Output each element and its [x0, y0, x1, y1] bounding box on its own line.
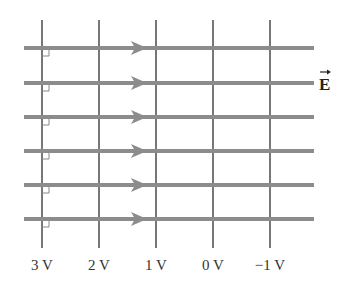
field-diagram: 3 V2 V1 V0 V−1 V E	[0, 0, 356, 283]
right-angle-icon	[42, 221, 49, 227]
right-angle-icon	[42, 187, 49, 193]
field-label-text: E	[319, 75, 330, 94]
equipotential-lines	[42, 20, 270, 248]
right-angle-markers	[42, 50, 49, 227]
potential-label: −1 V	[255, 257, 285, 273]
right-angle-icon	[42, 50, 49, 56]
right-angle-icon	[42, 153, 49, 159]
right-angle-icon	[42, 119, 49, 125]
potential-label: 0 V	[202, 257, 224, 273]
potential-labels: 3 V2 V1 V0 V−1 V	[31, 257, 285, 273]
field-label: E	[319, 70, 331, 95]
potential-label: 2 V	[88, 257, 110, 273]
vector-arrow-icon	[320, 70, 331, 75]
right-angle-icon	[42, 85, 49, 91]
potential-label: 3 V	[31, 257, 53, 273]
potential-label: 1 V	[145, 257, 167, 273]
